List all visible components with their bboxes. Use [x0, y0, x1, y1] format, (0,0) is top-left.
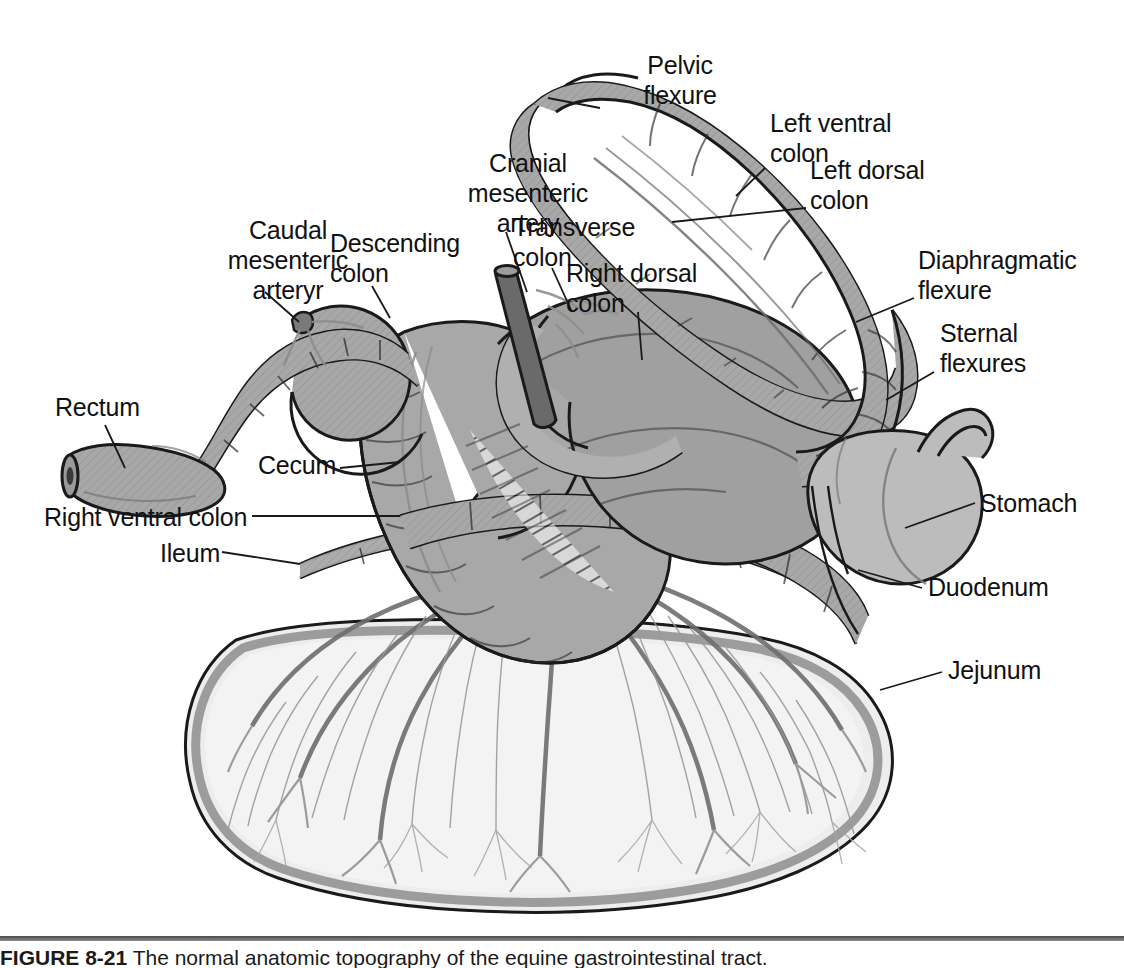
caption-divider — [0, 936, 1124, 941]
label-jejunum: Jejunum — [948, 655, 1041, 685]
figure-caption: FIGURE 8-21 The normal anatomic topograp… — [0, 946, 1124, 968]
label-rectum: Rectum — [55, 392, 140, 422]
label-cecum: Cecum — [258, 450, 336, 480]
figure-container: Pelvic flexureLeft ventral colonLeft dor… — [0, 0, 1124, 968]
label-duodenum: Duodenum — [928, 572, 1049, 602]
label-descending-colon: Descending colon — [330, 228, 460, 288]
anatomy-illustration — [0, 0, 1124, 968]
label-diaphragmatic-flexure: Diaphragmatic flexure — [918, 245, 1077, 305]
caption-text: The normal anatomic topography of the eq… — [133, 946, 768, 968]
caption-number: FIGURE 8-21 — [0, 946, 127, 968]
label-sternal-flexures: Sternal flexures — [940, 318, 1026, 378]
label-ileum: Ileum — [160, 538, 220, 568]
label-left-dorsal-colon: Left dorsal colon — [810, 155, 925, 215]
label-stomach: Stomach — [980, 488, 1077, 518]
label-right-dorsal-colon: Right dorsal colon — [566, 258, 697, 318]
leader-left-dorsal-colon — [672, 208, 806, 222]
label-pelvic-flexure: Pelvic flexure — [643, 50, 717, 110]
label-right-ventral-colon: Right ventral colon — [44, 502, 247, 532]
leader-ileum — [222, 552, 300, 564]
leader-jejunum — [880, 672, 942, 690]
